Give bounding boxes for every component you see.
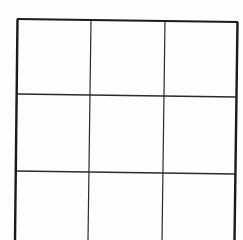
table-cell [92,98,162,170]
table-cell [19,22,89,92]
table-cell [164,176,232,240]
scanned-page [0,0,243,240]
table-cell [166,99,234,171]
table-cell [90,175,160,240]
table-cell [167,24,235,94]
table-cell [18,97,88,169]
table-cell [93,23,163,93]
table-cell [17,174,87,240]
